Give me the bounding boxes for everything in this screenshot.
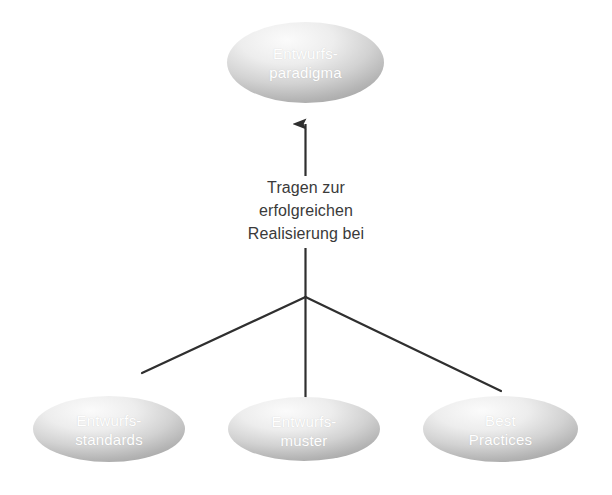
- node-ellipse-entwurfsmuster[interactable]: [228, 397, 380, 461]
- diagram-canvas: Entwurfs- paradigma Tragen zur erfolgrei…: [0, 0, 612, 495]
- diagram-graphics: [0, 0, 612, 495]
- edge-label-line-2: erfolgreichen: [186, 199, 426, 222]
- edge-label-line-3: Realisierung bei: [186, 222, 426, 245]
- edge-label-line-1: Tragen zur: [186, 176, 426, 199]
- edge-label-relationship: Tragen zur erfolgreichen Realisierung be…: [186, 176, 426, 245]
- node-ellipse-entwurfsstandards[interactable]: [33, 396, 185, 462]
- node-ellipse-best-practices[interactable]: [423, 396, 578, 462]
- connector-to-best-practices: [306, 297, 502, 391]
- connector-to-entwurfsstandards: [142, 297, 306, 373]
- node-ellipse-entwurfsparadigma[interactable]: [227, 22, 384, 103]
